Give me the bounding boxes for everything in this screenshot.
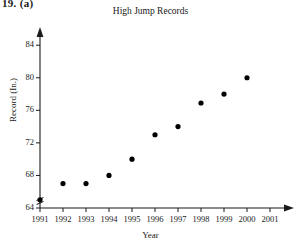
x-tick-label: 2001 bbox=[257, 214, 283, 224]
data-point bbox=[37, 197, 42, 202]
data-point-group bbox=[37, 75, 249, 202]
data-point bbox=[198, 100, 203, 105]
tick-marks bbox=[36, 45, 270, 212]
data-point bbox=[60, 181, 65, 186]
y-tick-label: 84 bbox=[4, 39, 34, 49]
data-point bbox=[175, 124, 180, 129]
data-point bbox=[83, 181, 88, 186]
y-tick-label: 68 bbox=[4, 169, 34, 179]
y-tick-label: 64 bbox=[4, 202, 34, 212]
y-axis-arrowhead bbox=[37, 27, 44, 37]
data-point bbox=[152, 132, 157, 137]
x-axis-arrowhead bbox=[284, 205, 294, 212]
data-point bbox=[129, 157, 134, 162]
x-axis-title: Year bbox=[0, 230, 301, 240]
y-axis-title: Record (In.) bbox=[8, 65, 18, 135]
scatter-plot bbox=[0, 0, 301, 247]
data-point bbox=[106, 173, 111, 178]
data-point bbox=[221, 91, 226, 96]
y-tick-label: 72 bbox=[4, 137, 34, 147]
axes bbox=[37, 27, 295, 211]
data-point bbox=[244, 75, 249, 80]
